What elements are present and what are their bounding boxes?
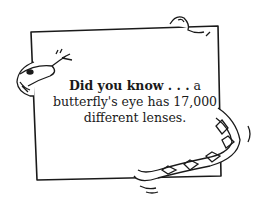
did-you-know-lead: Did you know . . . bbox=[69, 78, 190, 93]
caption-line-3: different lenses. bbox=[40, 110, 230, 126]
fun-fact-caption: Did you know . . . a butterfly's eye has… bbox=[40, 78, 230, 126]
caption-line-2: butterfly's eye has 17,000 bbox=[40, 94, 230, 110]
caption-line-1: Did you know . . . a bbox=[40, 78, 230, 94]
